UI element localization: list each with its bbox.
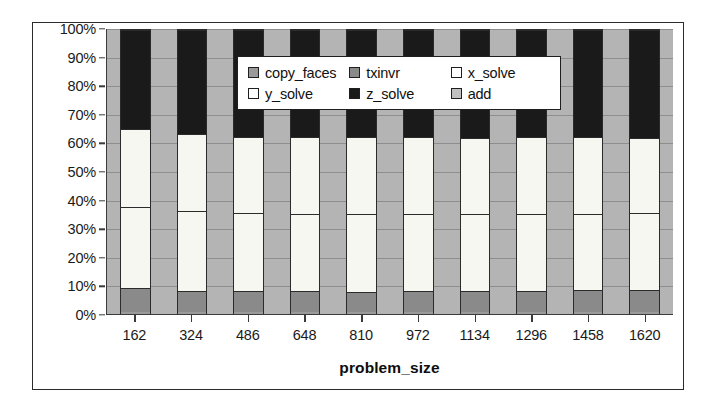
y-axis-tick-label: 0%	[75, 307, 96, 323]
y-axis-tick-mark	[99, 28, 105, 29]
x-axis-tick-mark	[191, 315, 192, 322]
chart-frame: 0%10%20%30%40%50%60%70%80%90%100% 162324…	[32, 22, 684, 390]
bar-segment-y_solve	[517, 214, 546, 290]
bar-segment-txinvr	[291, 291, 320, 313]
x-axis-tick-label: 162	[106, 327, 163, 343]
x-axis-tick-cell	[106, 315, 163, 323]
x-axis-tick-mark	[531, 315, 532, 322]
bar-segment-txinvr	[347, 292, 376, 313]
chart-legend: copy_facestxinvrx_solvey_solvez_solveadd	[237, 56, 561, 110]
x-axis-tick-cell	[333, 315, 390, 323]
bar-segment-z_solve	[630, 30, 659, 138]
legend-item-add[interactable]: add	[451, 83, 552, 104]
legend-swatch-icon	[451, 67, 462, 78]
y-axis-tick-mark	[99, 85, 105, 86]
legend-swatch-icon	[349, 67, 360, 78]
legend-label: add	[468, 86, 492, 102]
legend-item-txinvr[interactable]: txinvr	[349, 62, 450, 83]
legend-item-y_solve[interactable]: y_solve	[248, 83, 349, 104]
x-axis-tick-cell	[276, 315, 333, 323]
x-axis-tick-label: 1134	[446, 327, 503, 343]
bar-segment-txinvr	[574, 290, 603, 312]
legend-label: z_solve	[366, 86, 414, 102]
bar-segment-copy_faces	[630, 312, 659, 314]
bar-segment-copy_faces	[234, 312, 263, 314]
x-axis-tick-mark	[134, 315, 135, 322]
bar-segment-txinvr	[121, 288, 150, 312]
y-axis-tick-mark	[99, 114, 105, 115]
bar-segment-copy_faces	[461, 312, 490, 314]
stacked-bar[interactable]	[629, 29, 660, 314]
y-axis-tick-label: 10%	[68, 278, 96, 294]
x-axis-tick-mark	[248, 315, 249, 322]
x-axis-tick-mark	[418, 315, 419, 322]
x-axis-tick-label: 810	[333, 327, 390, 343]
x-axis-tick-label: 972	[390, 327, 447, 343]
legend-label: copy_faces	[265, 65, 336, 81]
bar-segment-copy_faces	[347, 312, 376, 314]
y-axis-tick-label: 80%	[68, 78, 96, 94]
y-axis-tick-label: 20%	[68, 250, 96, 266]
bar-segment-x_solve	[347, 137, 376, 213]
x-axis: 1623244866488109721134129614581620	[106, 315, 673, 355]
bar-segment-y_solve	[574, 214, 603, 290]
x-axis-tick-label: 1296	[503, 327, 560, 343]
x-axis-tick-cell	[390, 315, 447, 323]
y-axis-tick-mark	[99, 57, 105, 58]
bar-segment-txinvr	[517, 291, 546, 313]
legend-item-z_solve[interactable]: z_solve	[349, 83, 450, 104]
bar-segment-y_solve	[178, 211, 207, 290]
stacked-bar[interactable]	[120, 29, 151, 314]
y-axis-tick-mark	[99, 171, 105, 172]
bar-segment-x_solve	[630, 138, 659, 212]
legend-item-copy_faces[interactable]: copy_faces	[248, 62, 349, 83]
legend-swatch-icon	[248, 67, 259, 78]
bar-segment-y_solve	[630, 213, 659, 290]
bar-segment-z_solve	[574, 30, 603, 137]
y-axis-tick-label: 30%	[68, 221, 96, 237]
bar-segment-copy_faces	[178, 312, 207, 314]
x-axis-tick-cell	[219, 315, 276, 323]
x-axis-tick-cell	[163, 315, 220, 323]
bar-segment-z_solve	[121, 30, 150, 128]
bar-segment-x_solve	[574, 137, 603, 214]
bar-segment-x_solve	[517, 137, 546, 214]
x-axis-tick-label: 648	[276, 327, 333, 343]
stacked-bar[interactable]	[177, 29, 208, 314]
y-axis: 0%10%20%30%40%50%60%70%80%90%100%	[33, 23, 105, 321]
bar-segment-txinvr	[178, 291, 207, 313]
y-axis-tick-label: 70%	[68, 107, 96, 123]
x-axis-labels: 1623244866488109721134129614581620	[106, 327, 673, 343]
bar-segment-y_solve	[121, 207, 150, 288]
y-axis-tick-mark	[99, 257, 105, 258]
legend-swatch-icon	[451, 88, 462, 99]
bar-segment-y_solve	[234, 213, 263, 291]
bar-slot	[164, 29, 221, 314]
x-axis-ticks	[106, 315, 673, 323]
y-axis-tick-mark	[99, 228, 105, 229]
legend-label: y_solve	[265, 86, 313, 102]
bar-slot	[560, 29, 617, 314]
x-axis-tick-label: 1620	[616, 327, 673, 343]
legend-item-x_solve[interactable]: x_solve	[451, 62, 552, 83]
bar-segment-txinvr	[404, 291, 433, 313]
bar-segment-x_solve	[121, 129, 150, 207]
bar-segment-y_solve	[404, 214, 433, 291]
stacked-bar[interactable]	[573, 29, 604, 314]
y-axis-tick-mark	[99, 200, 105, 201]
bar-segment-x_solve	[234, 137, 263, 213]
bar-segment-copy_faces	[121, 312, 150, 314]
x-axis-tick-mark	[361, 315, 362, 322]
bar-segment-z_solve	[178, 30, 207, 134]
bar-segment-txinvr	[630, 290, 659, 313]
legend-label: txinvr	[366, 65, 399, 81]
bar-segment-y_solve	[347, 214, 376, 292]
x-axis-tick-mark	[475, 315, 476, 322]
bar-segment-copy_faces	[291, 312, 320, 314]
bar-segment-txinvr	[461, 291, 490, 313]
x-axis-title: problem_size	[106, 359, 673, 377]
bar-slot	[107, 29, 164, 314]
bar-segment-x_solve	[178, 134, 207, 211]
y-axis-tick-mark	[99, 143, 105, 144]
bar-segment-copy_faces	[404, 312, 433, 314]
